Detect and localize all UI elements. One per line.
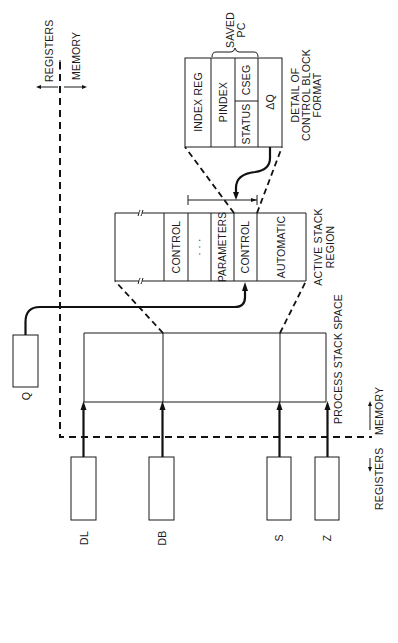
stack-architecture-diagram: REGISTERS MEMORY MEMORY REGISTERS PROCES… <box>0 0 398 643</box>
arrow-up-icon <box>242 282 248 291</box>
break-mark-icon <box>138 210 143 216</box>
control-block-delta-q: ΔQ <box>264 94 276 110</box>
active-stack-cell-parameters: PARAMETERS <box>217 212 228 282</box>
register-s-label: S <box>273 534 285 541</box>
expansion-lines-upper <box>185 147 282 213</box>
process-stack-space-label: PROCESS STACK SPACE <box>332 294 344 424</box>
register-dl <box>71 401 96 520</box>
register-z-label: Z <box>321 534 333 541</box>
arrow-right-icon <box>82 85 87 89</box>
arrow-left-icon <box>36 85 41 89</box>
register-dl-label: DL <box>78 531 90 545</box>
control-block-pindex: PINDEX <box>217 82 229 122</box>
active-stack-cell-control-2: CONTROL <box>239 221 251 274</box>
active-stack-cell-automatic: AUTOMATIC <box>275 215 287 278</box>
register-q <box>13 282 248 387</box>
active-stack-cell-control-1: CONTROL <box>170 221 182 274</box>
arrow-right-icon <box>251 198 257 202</box>
active-stack-label-line2: REGION <box>324 226 336 269</box>
top-memory-label: MEMORY <box>70 32 82 80</box>
register-s <box>267 401 291 520</box>
top-registers-label: REGISTERS <box>43 20 55 82</box>
register-db <box>149 401 174 520</box>
register-db-label: DB <box>156 531 168 546</box>
bottom-memory-label: MEMORY <box>373 387 385 435</box>
process-stack-space <box>84 333 326 402</box>
arrow-down-icon <box>368 467 372 472</box>
control-block-label-line3: FORMAT <box>311 72 323 117</box>
active-stack-cell-ellipsis: · · · <box>193 238 205 255</box>
bottom-registers-label: REGISTERS <box>373 448 385 510</box>
arrow-down-icon <box>233 192 239 200</box>
saved-pc-label-line2: PC <box>235 22 247 37</box>
register-q-label: Q <box>20 392 32 400</box>
arrow-up-icon <box>368 401 372 406</box>
brace-icon <box>212 48 258 57</box>
control-block-cseg: CSEG <box>240 65 252 96</box>
control-block-index-reg: INDEX REG <box>192 72 204 132</box>
control-block-status: STATUS <box>240 103 252 144</box>
active-stack-label-line1: ACTIVE STACK <box>312 208 324 285</box>
break-mark-icon <box>138 278 143 284</box>
